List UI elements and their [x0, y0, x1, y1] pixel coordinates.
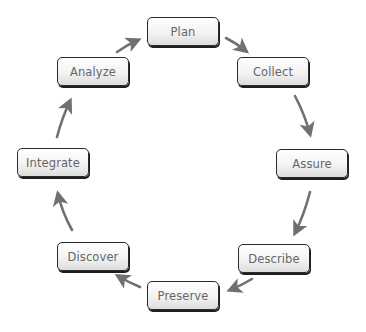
arrow-discover-to-integrate — [58, 194, 72, 230]
node-preserve: Preserve — [147, 281, 219, 310]
node-collect: Collect — [237, 57, 309, 86]
arrow-preserve-to-discover — [118, 276, 140, 287]
node-label: Preserve — [158, 289, 209, 303]
node-analyze: Analyze — [57, 57, 129, 86]
node-label: Plan — [171, 25, 196, 39]
arrow-collect-to-assure — [295, 96, 310, 134]
node-label: Analyze — [70, 65, 116, 79]
arrow-integrate-to-analyze — [57, 101, 70, 137]
node-label: Integrate — [26, 156, 80, 170]
node-integrate: Integrate — [17, 148, 89, 177]
node-discover: Discover — [57, 242, 129, 271]
arrow-assure-to-describe — [295, 192, 310, 233]
node-label: Describe — [248, 252, 299, 266]
node-describe: Describe — [238, 244, 310, 273]
node-label: Assure — [292, 157, 331, 171]
arrow-analyze-to-plan — [117, 40, 138, 52]
node-label: Collect — [253, 65, 293, 79]
node-plan: Plan — [147, 17, 219, 46]
node-label: Discover — [68, 250, 119, 264]
node-assure: Assure — [276, 149, 348, 178]
arrow-plan-to-collect — [226, 38, 246, 51]
arrow-describe-to-preserve — [230, 279, 252, 290]
